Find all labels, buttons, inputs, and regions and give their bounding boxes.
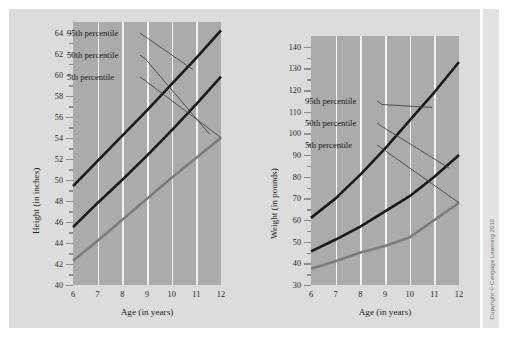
y-axis-tick-label: 52 xyxy=(37,154,63,163)
figure-panel: 40424446485052545658606264 6789101112 95… xyxy=(9,9,480,328)
y-axis-minor-tick xyxy=(69,106,74,107)
y-axis-tick xyxy=(304,220,311,221)
y-axis-minor-tick xyxy=(69,43,74,44)
y-axis-tick xyxy=(304,47,311,48)
series-annotation-label: 5th percentile xyxy=(305,140,352,150)
x-axis-tick-label: 10 xyxy=(405,290,413,299)
y-axis-tick-label: 130 xyxy=(275,64,301,73)
series-annotation-label: 50th percentile xyxy=(67,50,118,60)
x-axis-tick-label: 9 xyxy=(145,290,149,299)
weight-y-axis-title: Weight (in pounds) xyxy=(269,168,279,239)
y-axis-tick xyxy=(66,180,73,181)
y-axis-minor-tick xyxy=(69,148,74,149)
x-axis-tick-label: 7 xyxy=(334,290,338,299)
y-axis-tick-label: 110 xyxy=(275,107,301,116)
height-y-axis-title: Height (in inches) xyxy=(31,168,41,234)
copyright-wrapper: Copyright © Cengage Learning 2010 xyxy=(483,204,499,324)
x-axis-tick-label: 7 xyxy=(96,290,100,299)
y-axis-minor-tick xyxy=(307,209,312,210)
y-axis-tick xyxy=(66,285,73,286)
y-axis-minor-tick xyxy=(69,64,74,65)
x-axis-tick-label: 12 xyxy=(455,290,463,299)
y-axis-tick-label: 62 xyxy=(37,49,63,58)
y-axis-tick-label: 42 xyxy=(37,259,63,268)
y-axis-tick-label: 90 xyxy=(275,151,301,160)
x-axis-tick-label: 10 xyxy=(167,290,175,299)
copyright-text: Copyright © Cengage Learning 2010 xyxy=(488,200,495,320)
weight-x-axis-title: Age (in years) xyxy=(359,307,412,317)
weight-chart: 30405060708090100110120130140 6789101112… xyxy=(245,9,480,328)
y-axis-tick xyxy=(304,285,311,286)
y-axis-tick xyxy=(304,198,311,199)
y-axis-tick xyxy=(66,264,73,265)
y-axis-minor-tick xyxy=(307,253,312,254)
y-axis-tick xyxy=(304,68,311,69)
y-axis-tick-label: 30 xyxy=(275,281,301,290)
y-axis-minor-tick xyxy=(307,231,312,232)
y-axis-tick xyxy=(304,133,311,134)
y-axis-minor-tick xyxy=(69,127,74,128)
y-axis-tick xyxy=(304,112,311,113)
y-axis-tick-label: 64 xyxy=(37,28,63,37)
y-axis-minor-tick xyxy=(69,232,74,233)
height-chart: 40424446485052545658606264 6789101112 95… xyxy=(9,9,245,328)
series-line xyxy=(73,77,221,227)
height-x-axis-title: Age (in years) xyxy=(121,307,174,317)
y-axis-minor-tick xyxy=(307,274,312,275)
figure-root: 40424446485052545658606264 6789101112 95… xyxy=(0,0,518,344)
y-axis-minor-tick xyxy=(69,274,74,275)
y-axis-minor-tick xyxy=(307,188,312,189)
y-axis-tick xyxy=(66,222,73,223)
y-axis-tick-label: 60 xyxy=(37,70,63,79)
series-annotation-label: 95th percentile xyxy=(305,96,356,106)
y-axis-tick xyxy=(66,159,73,160)
y-axis-tick xyxy=(66,117,73,118)
series-annotation-label: 50th percentile xyxy=(305,118,356,128)
x-axis-tick-label: 9 xyxy=(383,290,387,299)
series-annotation-label: 95th percentile xyxy=(67,28,118,38)
y-axis-tick xyxy=(304,263,311,264)
y-axis-tick-label: 140 xyxy=(275,42,301,51)
x-axis-tick-label: 8 xyxy=(120,290,124,299)
y-axis-tick-label: 58 xyxy=(37,91,63,100)
y-axis-minor-tick xyxy=(69,85,74,86)
x-axis-tick-label: 11 xyxy=(430,290,438,299)
y-axis-tick-label: 40 xyxy=(37,281,63,290)
y-axis-tick xyxy=(66,201,73,202)
y-axis-tick xyxy=(66,96,73,97)
y-axis-tick-label: 44 xyxy=(37,238,63,247)
y-axis-minor-tick xyxy=(307,166,312,167)
y-axis-minor-tick xyxy=(69,190,74,191)
y-axis-minor-tick xyxy=(307,58,312,59)
y-axis-tick xyxy=(304,242,311,243)
y-axis-tick xyxy=(304,177,311,178)
x-axis-tick-label: 12 xyxy=(217,290,225,299)
y-axis-tick-label: 54 xyxy=(37,133,63,142)
series-annotation-label: 5th percentile xyxy=(67,72,114,82)
x-axis-tick-label: 6 xyxy=(309,290,313,299)
x-axis-tick-label: 6 xyxy=(71,290,75,299)
x-axis-tick-label: 11 xyxy=(192,290,200,299)
series-line xyxy=(311,155,459,251)
y-axis-tick xyxy=(66,138,73,139)
y-axis-tick-label: 100 xyxy=(275,129,301,138)
y-axis-tick-label: 40 xyxy=(275,259,301,268)
y-axis-tick xyxy=(304,90,311,91)
copyright-strip: Copyright © Cengage Learning 2010 xyxy=(483,9,499,328)
y-axis-tick xyxy=(304,155,311,156)
y-axis-tick-label: 120 xyxy=(275,86,301,95)
y-axis-tick xyxy=(66,243,73,244)
y-axis-tick-label: 56 xyxy=(37,112,63,121)
y-axis-minor-tick xyxy=(307,79,312,80)
y-axis-minor-tick xyxy=(69,169,74,170)
y-axis-minor-tick xyxy=(69,211,74,212)
x-axis-tick-label: 8 xyxy=(358,290,362,299)
y-axis-minor-tick xyxy=(69,253,74,254)
